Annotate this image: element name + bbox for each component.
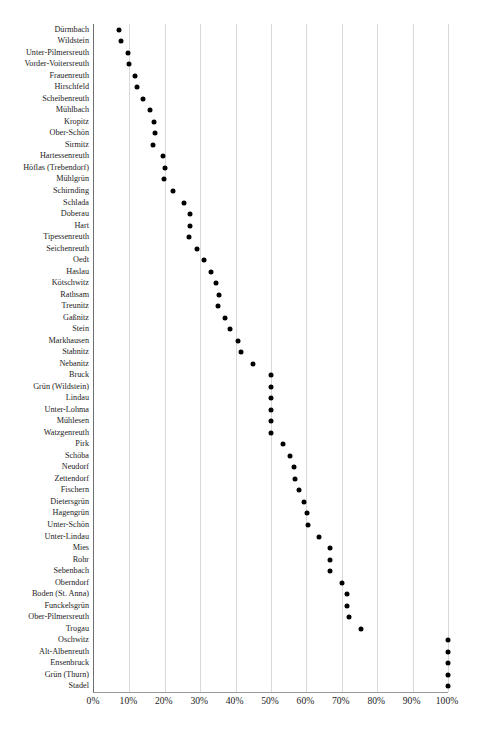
category-label: Markhausen xyxy=(49,337,89,345)
data-point xyxy=(296,488,301,493)
data-point xyxy=(228,327,233,332)
data-point xyxy=(135,85,140,90)
data-point xyxy=(305,511,310,516)
category-label: Doberau xyxy=(61,210,89,218)
gridline xyxy=(271,24,272,692)
category-label: Bruck xyxy=(69,371,89,379)
category-label: Mühlgrün xyxy=(56,175,89,183)
category-label: Schirnding xyxy=(53,187,89,195)
category-label: Hart xyxy=(74,221,89,229)
category-label: Rathsam xyxy=(60,291,89,299)
data-point xyxy=(118,39,123,44)
gridline xyxy=(200,24,201,692)
data-point xyxy=(140,96,145,101)
data-point xyxy=(269,419,274,424)
data-point xyxy=(153,131,158,136)
category-label: Hagengrün xyxy=(53,509,89,517)
x-axis-tick-label: 10% xyxy=(120,696,138,706)
category-label: Hartessenreuth xyxy=(40,152,89,160)
data-point xyxy=(359,626,364,631)
category-label: Frauenreuth xyxy=(49,72,89,80)
gridline xyxy=(236,24,237,692)
category-label: Ober-Schön xyxy=(50,129,89,137)
data-point xyxy=(195,246,200,251)
category-label: Schöba xyxy=(65,452,89,460)
data-point xyxy=(292,465,297,470)
category-label: Sirmitz xyxy=(65,141,89,149)
data-point xyxy=(215,304,220,309)
category-label: Ober-Pilmersreuth xyxy=(28,613,89,621)
data-point xyxy=(132,73,137,78)
data-point xyxy=(186,235,191,240)
category-label: Zettendorf xyxy=(54,475,89,483)
category-label: Watzgenreuth xyxy=(44,429,89,437)
gridline xyxy=(413,24,414,692)
data-point xyxy=(301,499,306,504)
data-point xyxy=(328,569,333,574)
data-point xyxy=(345,603,350,608)
data-point xyxy=(236,338,241,343)
data-point xyxy=(287,453,292,458)
data-point xyxy=(214,281,219,286)
category-label: Unter-Schön xyxy=(47,521,89,529)
category-label: Lindau xyxy=(66,394,89,402)
gridline xyxy=(342,24,343,692)
category-label: Grün (Wildstein) xyxy=(33,383,89,391)
data-point xyxy=(316,534,321,539)
category-label: Grün (Thurn) xyxy=(45,671,89,679)
data-point xyxy=(147,108,152,113)
category-label: Oschwitz xyxy=(58,636,89,644)
plot-area: DürmbachWildsteinUnter-PilmersreuthVorde… xyxy=(93,24,448,693)
category-label: Oberndorf xyxy=(55,578,89,586)
category-label: Nebanitz xyxy=(59,360,89,368)
category-label: Gaßnitz xyxy=(63,314,89,322)
gridline xyxy=(448,24,449,692)
category-label: Dürmbach xyxy=(54,26,89,34)
data-point xyxy=(306,523,311,528)
data-point xyxy=(269,373,274,378)
data-point xyxy=(269,396,274,401)
data-point xyxy=(208,269,213,274)
x-axis-tick-label: 80% xyxy=(367,696,385,706)
data-point xyxy=(328,546,333,551)
x-axis-tick-label: 90% xyxy=(403,696,421,706)
x-axis-tick-label: 30% xyxy=(190,696,208,706)
category-label: Trogau xyxy=(66,625,89,633)
category-label: Ensenbruck xyxy=(50,659,89,667)
x-axis-tick-label: 20% xyxy=(155,696,173,706)
category-label: Mühlbach xyxy=(56,106,89,114)
x-axis-tick-label: 0% xyxy=(87,696,100,706)
data-point xyxy=(238,350,243,355)
data-point xyxy=(345,592,350,597)
category-label: Kropitz xyxy=(64,118,89,126)
category-label: Sebenbach xyxy=(54,567,89,575)
data-point xyxy=(216,292,221,297)
category-label: Schlada xyxy=(63,198,89,206)
data-point xyxy=(339,580,344,585)
category-label: Oedt xyxy=(73,256,89,264)
category-label: Hirschfeld xyxy=(54,83,89,91)
data-point xyxy=(293,476,298,481)
gridline xyxy=(129,24,130,692)
category-label: Rohr xyxy=(73,555,89,563)
data-point xyxy=(171,189,176,194)
x-axis-tick-label: 60% xyxy=(297,696,315,706)
category-label: Höflas (Trebendorf) xyxy=(23,164,89,172)
data-point xyxy=(446,684,451,689)
data-point xyxy=(162,165,167,170)
data-point xyxy=(346,615,351,620)
category-label: Kötschwitz xyxy=(52,279,89,287)
category-label: Unter-Pilmersreuth xyxy=(26,49,89,57)
category-label: Unter-Lindau xyxy=(45,532,89,540)
category-label: Alt-Albenreuth xyxy=(39,648,89,656)
data-point xyxy=(446,661,451,666)
x-axis-tick-label: 70% xyxy=(332,696,350,706)
category-label: Vorder-Voitersreuth xyxy=(24,60,89,68)
data-point xyxy=(182,200,187,205)
gridline xyxy=(377,24,378,692)
category-label: Treunitz xyxy=(62,302,89,310)
data-point xyxy=(281,442,286,447)
category-label: Seichenreuth xyxy=(46,244,89,252)
data-point xyxy=(152,119,157,124)
category-label: Scheibenreuth xyxy=(42,95,89,103)
